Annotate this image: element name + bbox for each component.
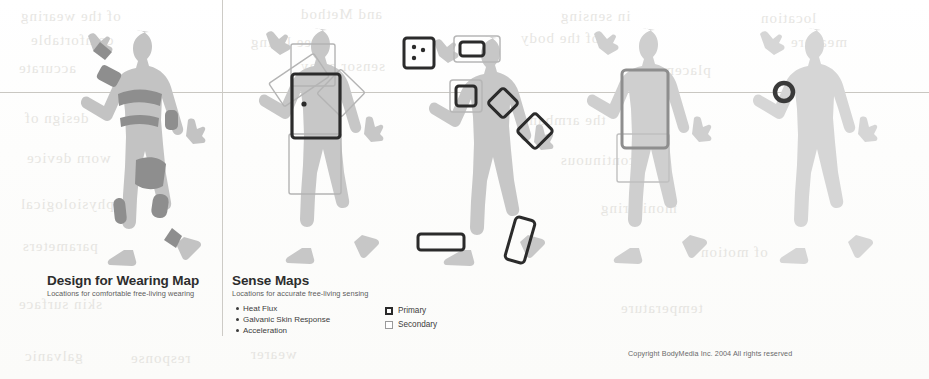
copyright-notice: Copyright BodyMedia Inc. 2004 All rights… bbox=[628, 349, 792, 358]
wearing-map-subtitle: Locations for comfortable free-living we… bbox=[47, 289, 212, 298]
ghost-text: wearer bbox=[250, 346, 297, 363]
ghost-text: skin surface bbox=[18, 296, 102, 313]
bullet-icon bbox=[236, 329, 239, 332]
sensor-label: Acceleration bbox=[243, 325, 287, 336]
list-item: Acceleration bbox=[236, 325, 376, 336]
galvanic-skin-figure bbox=[392, 18, 564, 268]
sensor-type-list: Heat Flux Galvanic Skin Response Acceler… bbox=[236, 303, 376, 336]
body-silhouette bbox=[429, 36, 553, 266]
legend-item-primary: Primary bbox=[385, 305, 437, 317]
heat-flux-figure bbox=[228, 18, 388, 268]
body-silhouette bbox=[81, 30, 205, 266]
scanned-page: of the wearingand Methodin sensinglocati… bbox=[0, 0, 929, 379]
bullet-icon bbox=[236, 307, 239, 310]
ghost-text: galvanic bbox=[24, 348, 83, 365]
legend-label: Primary bbox=[398, 305, 426, 317]
ghost-text: response bbox=[130, 350, 191, 367]
bullet-icon bbox=[236, 318, 239, 321]
list-item: Heat Flux bbox=[236, 303, 376, 314]
acceleration-figure bbox=[556, 18, 716, 268]
wearing-map-title: Design for Wearing Map bbox=[47, 273, 212, 288]
sensor-label: Galvanic Skin Response bbox=[243, 314, 330, 325]
wearing-map-figure bbox=[40, 18, 215, 268]
sensor-point bbox=[301, 101, 306, 106]
legend-item-secondary: Secondary bbox=[385, 319, 437, 331]
armband-figure bbox=[722, 18, 882, 268]
wearing-map-caption: Design for Wearing Map Locations for com… bbox=[47, 273, 212, 298]
primary-swatch-icon bbox=[385, 307, 393, 315]
body-silhouette bbox=[753, 28, 877, 264]
ghost-text: temperature bbox=[620, 300, 703, 317]
list-item: Galvanic Skin Response bbox=[236, 314, 376, 325]
sense-maps-caption: Sense Maps Locations for accurate free-l… bbox=[232, 273, 442, 298]
sense-maps-title: Sense Maps bbox=[232, 273, 442, 288]
legend: Primary Secondary bbox=[385, 305, 437, 333]
body-silhouette bbox=[587, 28, 711, 264]
sense-maps-subtitle: Locations for accurate free-living sensi… bbox=[232, 289, 442, 298]
sensor-label: Heat Flux bbox=[243, 303, 277, 314]
legend-label: Secondary bbox=[398, 319, 437, 331]
secondary-swatch-icon bbox=[385, 321, 393, 329]
sensor-contact-dots bbox=[412, 45, 425, 60]
vertical-divider-rule bbox=[222, 0, 223, 336]
